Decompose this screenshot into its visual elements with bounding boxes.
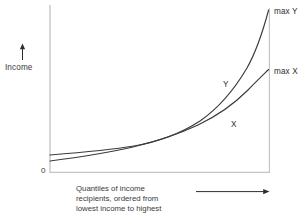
x-axis-caption-line-3: lowest income to highest — [76, 204, 198, 214]
up-arrow-icon — [20, 43, 25, 60]
max-x-label: max X — [274, 68, 298, 76]
curve-x-label: X — [231, 121, 237, 129]
right-arrow-icon — [196, 189, 270, 194]
curve-y — [50, 10, 269, 155]
curve-x — [50, 70, 269, 162]
x-axis-caption-line-1: Quantiles of income — [76, 184, 198, 194]
curve-y-label: Y — [223, 81, 229, 89]
x-axis-caption-line-2: recipients, ordered from — [76, 194, 198, 204]
origin-label: 0 — [41, 167, 46, 175]
income-distribution-chart: Income 0 max Y max X Y X Quantiles of in… — [0, 0, 305, 221]
x-axis-caption: Quantiles of income recipients, ordered … — [76, 184, 198, 215]
max-y-label: max Y — [274, 8, 298, 16]
y-axis-label: Income — [5, 64, 32, 72]
